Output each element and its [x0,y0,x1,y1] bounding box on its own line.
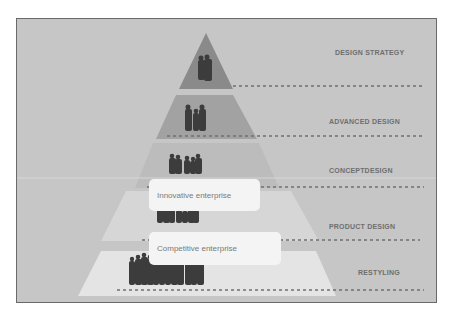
callout-competitive-enterprise: Competitive enterprise [149,232,281,265]
level-label-concept-design: CONCEPTDESIGN [329,167,393,174]
level-label-restyling: RESTYLING [358,269,400,276]
level-label-product-design: PRODUCT DESIGN [329,223,395,230]
pyramid-level-advanced-design [156,95,257,139]
diagram-frame: DESIGN STRATEGY ADVANCED DESIGN CONCEPTD… [16,18,437,303]
level-label-advanced-design: ADVANCED DESIGN [329,118,400,125]
callout-innovative-enterprise: Innovative enterprise [149,179,260,211]
level-label-design-strategy: DESIGN STRATEGY [335,49,404,56]
